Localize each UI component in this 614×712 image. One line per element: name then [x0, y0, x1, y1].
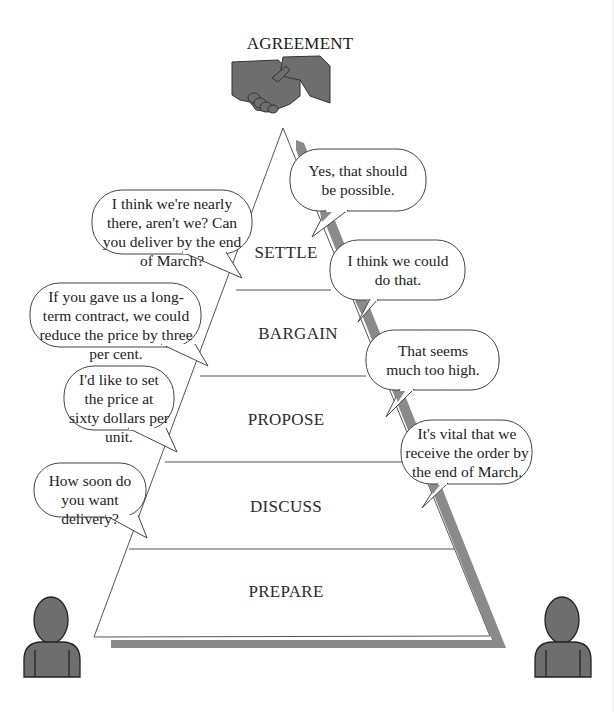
stage-label-propose: PROPOSE: [186, 410, 386, 430]
bubble-text-left-bargain: If you gave us a long-term contract, we …: [36, 287, 196, 363]
person-icon-left: [24, 597, 80, 677]
bubble-text-right-propose: That seems much too high.: [380, 341, 486, 379]
negotiation-stages-diagram: AGREEMENT SETTLE BARGAIN PROPOSE DISCUSS…: [0, 0, 614, 712]
bubble-text-left-settle: I think we're nearly there, aren't we? C…: [98, 194, 246, 270]
stage-label-discuss: DISCUSS: [186, 497, 386, 517]
handshake-icon: [232, 56, 330, 113]
bubble-text-right-bargain: I think we could do that.: [342, 251, 454, 289]
bubble-text-right-discuss: It's vital that we receive the order by …: [404, 424, 530, 481]
stage-label-bargain: BARGAIN: [198, 324, 398, 344]
bubble-text-left-discuss: How soon do you want delivery?: [40, 471, 140, 528]
bubble-text-right-settle: Yes, that should be possible.: [302, 161, 414, 199]
stage-label-prepare: PREPARE: [186, 582, 386, 602]
agreement-title: AGREEMENT: [200, 34, 400, 54]
person-icon-right: [535, 597, 591, 677]
bubble-text-left-propose: I'd like to set the price at sixty dolla…: [68, 370, 170, 446]
